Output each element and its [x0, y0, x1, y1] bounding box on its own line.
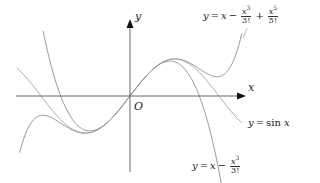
y-axis-arrow-icon [127, 19, 134, 28]
leader-line-quintic [243, 28, 247, 38]
quintic-taylor-curve [20, 33, 242, 152]
x-axis-arrow-icon [237, 93, 246, 100]
fraction-x3-over-3fact: x3 3! [241, 5, 251, 26]
cubic-label: y = x − x3 3! [192, 155, 242, 176]
y-axis-label: y [135, 11, 141, 22]
fraction-x5-over-5fact: x5 5! [268, 5, 278, 26]
fraction-x3-over-3fact: x3 3! [230, 155, 240, 176]
sin-label: y = sin x [248, 117, 290, 128]
x-axis-label: x [248, 82, 254, 93]
origin-label: O [134, 101, 143, 112]
quintic-label: y = x − x3 3! + x5 5! [203, 5, 280, 26]
